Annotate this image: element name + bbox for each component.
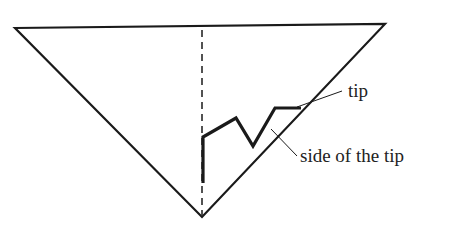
side-of-tip-label: side of the tip — [300, 145, 404, 166]
folded-triangle — [15, 24, 385, 217]
side-leader-line — [271, 129, 297, 156]
tip-label: tip — [348, 80, 368, 101]
folded-paper-diagram: tip side of the tip — [0, 0, 463, 226]
